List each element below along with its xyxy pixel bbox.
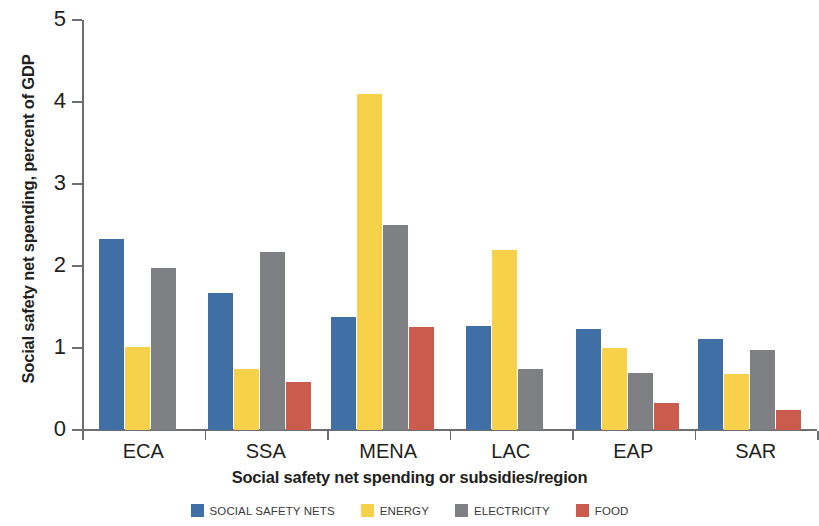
x-axis-tick-label-eap: EAP <box>572 440 695 463</box>
bar <box>125 347 150 430</box>
bar <box>698 339 723 430</box>
x-axis-tick <box>205 431 207 440</box>
legend-item: FOOD <box>576 504 629 517</box>
bar <box>409 327 434 430</box>
legend-label: FOOD <box>595 505 629 517</box>
y-axis-tick-label: 1 <box>22 334 66 360</box>
plot-area <box>82 20 817 430</box>
legend-label: ENERGY <box>380 505 429 517</box>
y-axis-tick <box>72 347 82 349</box>
bar <box>383 225 408 430</box>
bar-chart-figure: Social safety net spending, percent of G… <box>0 0 819 526</box>
legend-item: ELECTRICITY <box>455 504 550 517</box>
bar <box>602 348 627 430</box>
x-axis-tick <box>450 431 452 440</box>
y-axis-title: Social safety net spending, percent of G… <box>19 9 45 429</box>
x-axis-tick-label-ssa: SSA <box>205 440 328 463</box>
y-axis-tick <box>72 183 82 185</box>
x-axis-tick <box>82 431 84 440</box>
x-axis-tick <box>572 431 574 440</box>
bar <box>208 293 233 430</box>
legend-swatch-food <box>576 504 589 517</box>
bar <box>286 382 311 430</box>
y-axis-tick <box>72 101 82 103</box>
x-axis-tick-label-mena: MENA <box>327 440 450 463</box>
bar <box>151 268 176 430</box>
x-axis-tick-label-lac: LAC <box>450 440 573 463</box>
legend-swatch-energy <box>361 504 374 517</box>
x-axis-title: Social safety net spending or subsidies/… <box>0 468 819 487</box>
y-axis-tick <box>72 429 82 431</box>
x-axis-tick-label-eca: ECA <box>82 440 205 463</box>
y-axis-tick-label: 0 <box>22 416 66 442</box>
y-axis-tick-label: 4 <box>22 88 66 114</box>
bar <box>750 350 775 430</box>
bar <box>357 94 382 430</box>
bar <box>99 239 124 430</box>
y-axis-tick <box>72 19 82 21</box>
bar <box>492 250 517 430</box>
y-axis-tick-label: 3 <box>22 170 66 196</box>
legend-item: ENERGY <box>361 504 429 517</box>
chart-legend: SOCIAL SAFETY NETSENERGYELECTRICITYFOOD <box>0 504 819 517</box>
legend-swatch-social-safety-nets <box>191 504 204 517</box>
y-axis-tick-label: 2 <box>22 252 66 278</box>
bar <box>576 329 601 430</box>
legend-label: ELECTRICITY <box>474 505 550 517</box>
legend-item: SOCIAL SAFETY NETS <box>191 504 335 517</box>
bar <box>331 317 356 430</box>
x-axis-tick-label-sar: SAR <box>695 440 818 463</box>
bar <box>724 374 749 430</box>
bar <box>234 369 259 431</box>
bar <box>654 403 679 430</box>
bar <box>628 373 653 430</box>
bar <box>776 410 801 431</box>
x-axis-tick <box>817 431 819 440</box>
legend-label: SOCIAL SAFETY NETS <box>210 505 335 517</box>
x-axis-tick <box>327 431 329 440</box>
bar <box>518 369 543 431</box>
y-axis-tick-label: 5 <box>22 6 66 32</box>
bar <box>466 326 491 430</box>
y-axis-tick <box>72 265 82 267</box>
bar <box>260 252 285 430</box>
legend-swatch-electricity <box>455 504 468 517</box>
x-axis-tick <box>695 431 697 440</box>
